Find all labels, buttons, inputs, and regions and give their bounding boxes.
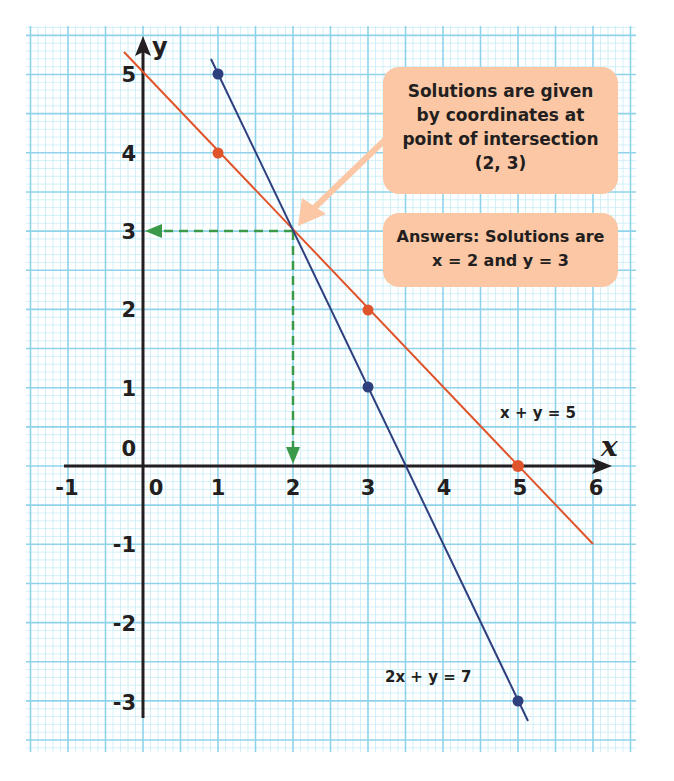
callout-arrow xyxy=(298,135,390,226)
callout-intersection: Solutions are given by coordinates at po… xyxy=(383,67,618,194)
svg-text:6: 6 xyxy=(589,476,604,500)
y-axis-label: y xyxy=(152,33,168,61)
svg-text:0: 0 xyxy=(121,437,136,461)
svg-text:5: 5 xyxy=(513,476,528,500)
svg-text:0: 0 xyxy=(149,476,164,500)
callout-line: Solutions are given xyxy=(383,79,618,103)
svg-text:4: 4 xyxy=(121,142,136,166)
svg-text:-3: -3 xyxy=(113,691,136,715)
svg-text:2: 2 xyxy=(286,476,301,500)
callout-answers: Answers: Solutions are x = 2 and y = 3 xyxy=(383,213,618,287)
svg-text:4: 4 xyxy=(437,476,452,500)
svg-text:-1: -1 xyxy=(113,533,136,557)
svg-text:1: 1 xyxy=(121,377,136,401)
intersection-guides xyxy=(145,224,300,464)
left-arrow-icon xyxy=(145,224,162,238)
callout-line: point of intersection xyxy=(383,127,618,151)
svg-text:5: 5 xyxy=(121,63,136,87)
line1-label: x + y = 5 xyxy=(500,404,576,422)
callout-line: by coordinates at xyxy=(383,103,618,127)
svg-text:3: 3 xyxy=(121,220,136,244)
x-tick-labels: -1 0 1 2 3 4 5 6 xyxy=(55,476,603,500)
x-axis-label: x xyxy=(600,430,618,463)
y-axis xyxy=(135,36,151,718)
svg-text:1: 1 xyxy=(211,476,226,500)
svg-text:-2: -2 xyxy=(113,612,136,636)
svg-text:2: 2 xyxy=(121,298,136,322)
line2-label: 2x + y = 7 xyxy=(385,668,471,686)
svg-text:3: 3 xyxy=(361,476,376,500)
svg-text:-1: -1 xyxy=(55,476,78,500)
callout-line: Answers: Solutions are xyxy=(383,225,618,249)
callout-line: (2, 3) xyxy=(383,151,618,175)
callout-line: x = 2 and y = 3 xyxy=(383,249,618,273)
down-arrow-icon xyxy=(286,447,300,464)
